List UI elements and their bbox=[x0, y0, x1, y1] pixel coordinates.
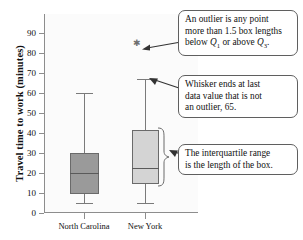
callout-outlier-definition: An outlier is any point more than 1.5 bo… bbox=[178, 10, 298, 56]
y-tick-mark-0 bbox=[39, 213, 44, 214]
y-axis-title: Travel time to work (minutes) bbox=[14, 19, 25, 209]
callout-whisker-line3: an outlier, 65. bbox=[185, 102, 292, 114]
boxplot-figure: 90 80 70 60 50 40 30 20 10 0 Travel time… bbox=[0, 0, 303, 240]
y-tick-mark-50 bbox=[39, 113, 44, 114]
callout-whisker-line1: Whisker ends at last bbox=[185, 79, 292, 91]
x-tick-mark-new-york bbox=[145, 213, 146, 219]
x-tick-mark-north-carolina bbox=[84, 213, 85, 219]
callout-outlier-line3-pre: below bbox=[185, 37, 210, 47]
callout-outlier-line3-mid: or above bbox=[220, 37, 257, 47]
y-tick-mark-70 bbox=[39, 73, 44, 74]
y-tick-label-0: 0 bbox=[14, 208, 36, 218]
callout-outlier-line3-post: . bbox=[267, 37, 269, 47]
ny-box bbox=[132, 130, 159, 184]
callout-outlier-line1: An outlier is any point bbox=[185, 14, 292, 26]
nc-upper-whisker-line bbox=[84, 93, 85, 153]
x-tick-label-north-carolina: North Carolina bbox=[58, 221, 109, 231]
y-axis-line bbox=[44, 14, 45, 213]
callout-whisker-line2: data value that is not bbox=[185, 91, 292, 103]
y-tick-mark-20 bbox=[39, 173, 44, 174]
callout-outlier-q3: Q bbox=[257, 37, 264, 47]
nc-median-line bbox=[70, 173, 99, 174]
x-axis-line bbox=[44, 212, 198, 213]
ny-median-line bbox=[132, 168, 159, 169]
nc-upper-whisker-cap bbox=[76, 93, 93, 94]
callout-iqr-line2: is the length of the box. bbox=[185, 160, 292, 172]
nc-lower-whisker-line bbox=[84, 193, 85, 203]
y-tick-mark-80 bbox=[39, 53, 44, 54]
nc-lower-whisker-cap bbox=[76, 203, 93, 204]
callout-outlier-q1: Q bbox=[210, 37, 217, 47]
y-tick-mark-60 bbox=[39, 93, 44, 94]
y-tick-mark-30 bbox=[39, 153, 44, 154]
ny-lower-whisker-line bbox=[145, 183, 146, 203]
callout-whisker-definition: Whisker ends at last data value that is … bbox=[178, 75, 298, 118]
ny-lower-whisker-cap bbox=[137, 203, 154, 204]
y-tick-mark-40 bbox=[39, 133, 44, 134]
x-tick-label-new-york: New York bbox=[128, 221, 162, 231]
y-tick-mark-10 bbox=[39, 193, 44, 194]
callout-outlier-line2: more than 1.5 box lengths bbox=[185, 26, 292, 38]
y-tick-mark-90 bbox=[39, 33, 44, 34]
callout-iqr-definition: The interquartile range is the length of… bbox=[178, 144, 298, 175]
callout-outlier-line3: below Q1 or above Q3. bbox=[185, 37, 292, 51]
callout-iqr-line1: The interquartile range bbox=[185, 148, 292, 160]
